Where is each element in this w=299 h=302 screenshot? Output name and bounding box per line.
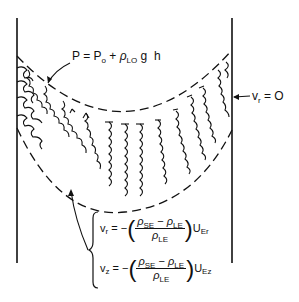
plus-sign: + <box>109 49 116 63</box>
rho: ρ <box>153 269 159 281</box>
denominator: ρLE <box>136 269 186 281</box>
radial-velocity-equation: vr = − ( ρSE − ρLE ρLE ) UEr <box>100 216 209 241</box>
zero-value: = O <box>264 89 284 103</box>
equation-brace <box>89 212 98 288</box>
wall-velocity-label: vr = O <box>252 90 284 102</box>
subscript: LO <box>127 56 138 65</box>
subscript: r <box>258 96 261 105</box>
equals-minus: = − <box>111 223 127 234</box>
subscript: Ez <box>202 268 211 276</box>
minus: − <box>157 215 163 227</box>
velocity-U: U <box>193 223 201 234</box>
solidus-dashed-curve <box>17 128 232 213</box>
pressure-leader-arrow <box>48 63 70 83</box>
left-paren: ( <box>127 217 135 241</box>
density-symbol: ρ <box>120 49 127 63</box>
density-fraction: ρSE − ρLE ρLE <box>135 216 185 241</box>
subscript: SE <box>143 221 154 230</box>
equation-leader-arrow <box>71 191 88 250</box>
right-paren: ) <box>185 217 193 241</box>
right-paren: ) <box>186 257 194 281</box>
subscript: r <box>106 228 109 236</box>
subscript: LE <box>173 221 183 230</box>
left-paren: ( <box>128 257 136 281</box>
subscript: LE <box>158 235 168 244</box>
axial-velocity-equation: vz = − ( ρSE − ρLE ρLE ) UEz <box>100 256 211 281</box>
gravity-symbol: g <box>141 49 148 63</box>
density-fraction: ρSE − ρLE ρLE <box>136 256 186 281</box>
arrowhead-icon <box>68 189 74 196</box>
numerator: ρSE − ρLE <box>136 256 186 269</box>
subscript: SE <box>145 261 156 270</box>
numerator: ρSE − ρLE <box>135 216 185 229</box>
pressure-equation-label: P = Po + ρLO g h <box>72 50 161 62</box>
pressure-symbol: P <box>72 49 80 63</box>
subscript: z <box>106 268 110 276</box>
equals-minus: = − <box>113 263 129 274</box>
reference-pressure: P <box>94 49 102 63</box>
subscript: LE <box>160 275 170 284</box>
equals-sign: = <box>83 49 90 63</box>
minus: − <box>159 255 165 267</box>
subscript: LE <box>174 261 184 270</box>
denominator: ρLE <box>135 229 185 241</box>
subscript: o <box>102 56 106 65</box>
subscript: Er <box>201 228 209 236</box>
rho: ρ <box>138 255 144 267</box>
velocity-U: U <box>194 263 202 274</box>
arrowhead-icon <box>233 94 239 100</box>
height-symbol: h <box>154 49 161 63</box>
